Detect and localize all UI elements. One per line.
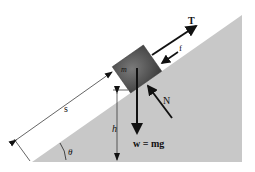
angle-label: θ [68, 147, 73, 157]
incline-diagram: s h θ m T f N w = mg [0, 0, 255, 172]
mass-label: m [121, 65, 127, 74]
friction-label: f [179, 43, 182, 53]
tension-label: T [188, 15, 195, 26]
height-label: h [112, 123, 117, 134]
weight-label: w = mg [133, 138, 164, 149]
distance-label: s [64, 103, 68, 114]
normal-label: N [163, 95, 170, 106]
tension-vector: T [152, 15, 196, 55]
